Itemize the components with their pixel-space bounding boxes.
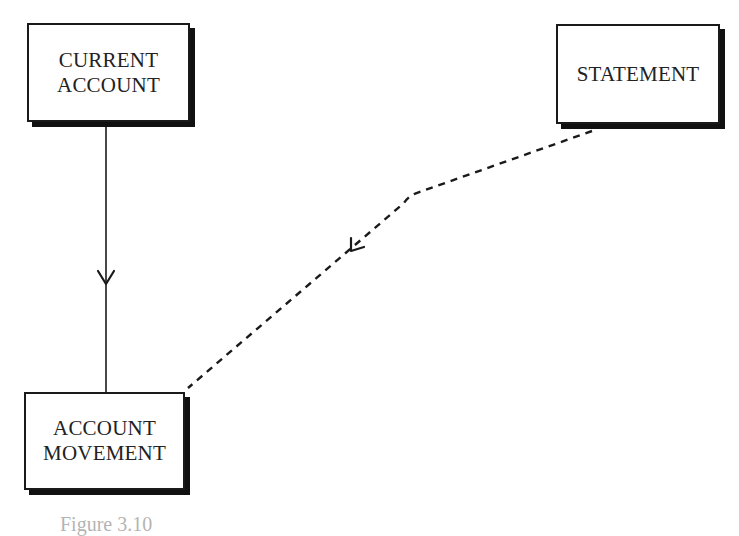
- arrowhead-down-left-icon: [351, 238, 364, 251]
- relationship-current-account-to-account-movement: [98, 124, 114, 392]
- entity-statement: STATEMENT: [556, 24, 720, 124]
- figure-caption: Figure 3.10: [60, 513, 152, 536]
- entity-label: ACCOUNT MOVEMENT: [43, 416, 166, 466]
- entity-label: CURRENT ACCOUNT: [57, 48, 160, 98]
- relationship-statement-to-account-movement: [188, 131, 592, 388]
- entity-label: STATEMENT: [577, 62, 700, 87]
- entity-account-movement: ACCOUNT MOVEMENT: [24, 392, 185, 490]
- entity-current-account: CURRENT ACCOUNT: [27, 23, 190, 122]
